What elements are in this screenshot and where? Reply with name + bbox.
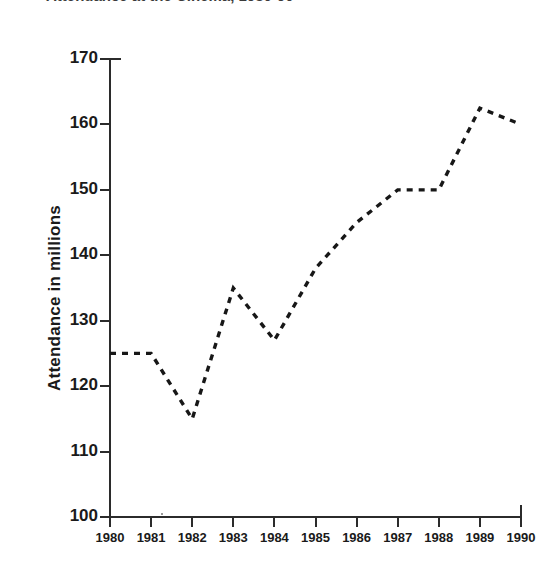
attendance-line — [110, 108, 521, 419]
